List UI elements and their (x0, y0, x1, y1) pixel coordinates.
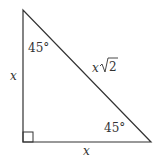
top-angle-label: 45° (28, 41, 49, 55)
bottom-side-label: x (83, 144, 90, 158)
bottom-right-angle-label: 45° (104, 121, 125, 135)
hypotenuse-label: x 2 (92, 58, 118, 75)
triangle (23, 10, 151, 142)
triangle-diagram: 45° 45° x x x 2 (0, 0, 159, 161)
hypotenuse-radicand: 2 (109, 60, 117, 74)
left-side-label: x (10, 69, 17, 83)
right-angle-marker (23, 132, 33, 142)
hypotenuse-variable: x (92, 61, 99, 75)
